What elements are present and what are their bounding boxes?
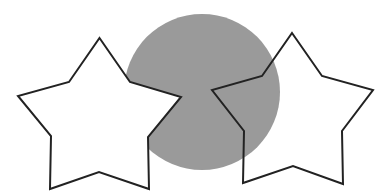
diagram-canvas [0,0,380,194]
